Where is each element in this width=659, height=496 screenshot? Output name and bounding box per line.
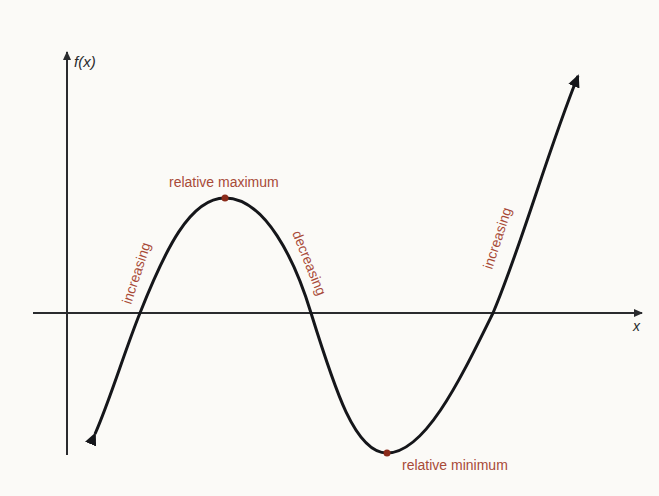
increasing-right-label: increasing	[480, 205, 515, 271]
y-axis-label: f(x)	[74, 53, 96, 70]
relative-minimum-point	[384, 450, 391, 457]
relative-maximum-point	[222, 195, 229, 202]
function-graph-diagram: f(x) x relative maximum relative minimum…	[0, 0, 659, 496]
x-axis-label: x	[632, 318, 641, 334]
relative-minimum-label: relative minimum	[402, 457, 508, 473]
function-curve	[95, 76, 578, 453]
relative-maximum-label: relative maximum	[169, 174, 279, 190]
decreasing-label: decreasing	[289, 228, 329, 298]
